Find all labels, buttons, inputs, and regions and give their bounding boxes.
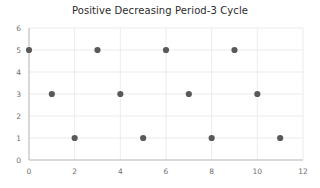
x-tick-label: 10 [253, 167, 263, 176]
data-point [254, 91, 260, 97]
x-tick-label: 8 [209, 167, 214, 176]
data-point [186, 91, 192, 97]
y-tick-label: 1 [16, 134, 21, 143]
y-tick-label: 3 [16, 90, 21, 99]
x-tick-label: 12 [298, 167, 308, 176]
y-tick-label: 6 [16, 24, 21, 33]
y-axis-tick-labels: 0123456 [16, 24, 21, 165]
data-point [231, 47, 237, 53]
data-point [140, 135, 146, 141]
y-tick-label: 4 [16, 68, 21, 77]
data-point [117, 91, 123, 97]
data-point [209, 135, 215, 141]
chart-figure: Positive Decreasing Period-3 Cycle 02468… [0, 0, 320, 188]
data-point [26, 47, 32, 53]
x-tick-label: 6 [164, 167, 169, 176]
scatter-plot: 024681012 0123456 [0, 0, 320, 188]
x-axis-tick-labels: 024681012 [27, 167, 308, 176]
data-point [49, 91, 55, 97]
data-point [72, 135, 78, 141]
x-tick-label: 0 [27, 167, 32, 176]
y-tick-label: 0 [16, 156, 21, 165]
x-tick-label: 2 [72, 167, 77, 176]
data-point [277, 135, 283, 141]
x-tick-label: 4 [118, 167, 123, 176]
y-tick-label: 2 [16, 112, 21, 121]
data-point [163, 47, 169, 53]
y-tick-label: 5 [16, 46, 21, 55]
data-point [94, 47, 100, 53]
